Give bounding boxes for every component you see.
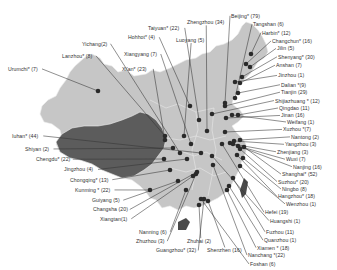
taiwan-island bbox=[240, 178, 248, 198]
city-label: Jinzhou (1) bbox=[278, 72, 304, 78]
city-marker bbox=[210, 112, 215, 117]
city-marker bbox=[206, 199, 211, 204]
city-label: Zhuzhou (3) bbox=[136, 238, 165, 244]
city-marker bbox=[184, 188, 189, 193]
city-marker bbox=[163, 138, 168, 143]
city-label: Dalian *(9) bbox=[281, 82, 306, 88]
city-marker bbox=[162, 157, 167, 162]
city-label: Lanzhou* (8) bbox=[62, 53, 92, 59]
city-label: Xi'an* (23) bbox=[122, 66, 147, 72]
leader-line bbox=[201, 199, 249, 264]
city-label: Taiyuan* (22) bbox=[148, 25, 179, 31]
city-label: Zhuhai (2) bbox=[187, 238, 211, 244]
city-marker bbox=[233, 96, 238, 101]
city-label: Jilin (5) bbox=[277, 45, 294, 51]
city-marker bbox=[223, 104, 228, 109]
leader-line bbox=[238, 85, 280, 93]
city-label: Xiamen * (18) bbox=[257, 245, 289, 251]
city-label: Shenyang* (30) bbox=[278, 54, 315, 60]
city-marker bbox=[148, 188, 153, 193]
city-marker bbox=[199, 151, 204, 156]
leader-line bbox=[233, 178, 265, 232]
city-marker bbox=[197, 203, 202, 208]
city-marker bbox=[205, 129, 210, 134]
city-marker bbox=[241, 156, 246, 161]
city-label: Jingzhou (4) bbox=[64, 166, 93, 172]
city-marker bbox=[185, 157, 190, 162]
city-label: Qingdao (11) bbox=[279, 105, 310, 111]
city-marker bbox=[233, 80, 238, 85]
city-marker bbox=[230, 113, 235, 118]
city-label: Hefei (19) bbox=[265, 209, 288, 215]
city-marker bbox=[235, 153, 240, 158]
city-marker bbox=[225, 188, 230, 193]
city-label: Changsha (20) bbox=[93, 206, 128, 212]
city-label: Xuzhou *(7) bbox=[283, 126, 311, 132]
city-label: Ningbo (8) bbox=[282, 186, 307, 192]
city-marker bbox=[249, 52, 254, 57]
city-label: Luoyang (5) bbox=[176, 37, 204, 43]
city-label: Hohhot* (4) bbox=[128, 34, 155, 40]
city-label: Xiangtan(1) bbox=[100, 216, 127, 222]
leader-line bbox=[199, 205, 201, 238]
city-marker bbox=[240, 75, 245, 80]
city-label: Hangzhou* (18) bbox=[278, 193, 315, 199]
city-marker bbox=[236, 113, 241, 118]
city-marker bbox=[236, 91, 241, 96]
city-marker bbox=[242, 145, 247, 150]
hainan-island bbox=[178, 218, 190, 230]
city-label: Shanghai* (52) bbox=[282, 171, 317, 177]
city-marker bbox=[238, 147, 243, 152]
city-label: Wenzhou (1) bbox=[286, 201, 316, 207]
china-city-map: Urumchi* (7)Lanzhou* (8)Yichang(2)Xi'an*… bbox=[0, 0, 337, 270]
city-marker bbox=[210, 154, 215, 159]
city-label: Foshan (6) bbox=[250, 261, 276, 267]
city-marker bbox=[248, 65, 253, 70]
city-marker bbox=[171, 146, 176, 151]
city-marker bbox=[231, 176, 236, 181]
city-label: Nanchang *(22) bbox=[248, 252, 285, 258]
city-marker bbox=[188, 104, 193, 109]
city-label: Chongqing* (13) bbox=[70, 177, 109, 183]
city-marker bbox=[176, 179, 181, 184]
city-marker bbox=[227, 184, 232, 189]
city-marker bbox=[191, 174, 196, 179]
leader-line bbox=[240, 137, 290, 140]
city-label: Chengdu* (22) bbox=[36, 156, 70, 162]
city-label: Urumchi* (7) bbox=[8, 66, 38, 72]
city-label: Changchun* (16) bbox=[272, 38, 312, 44]
city-marker bbox=[211, 163, 216, 168]
city-label: Suzhou* (20) bbox=[278, 179, 309, 185]
city-marker bbox=[189, 142, 194, 147]
city-marker bbox=[96, 89, 101, 94]
city-marker bbox=[220, 142, 225, 147]
city-label: Xiangyang (7) bbox=[124, 51, 157, 57]
city-label: Guiyang (5) bbox=[92, 197, 120, 203]
city-label: Yichang(2) bbox=[82, 41, 107, 47]
city-marker bbox=[163, 134, 168, 139]
city-marker bbox=[238, 81, 243, 86]
city-label: Huangshi (1) bbox=[270, 218, 300, 224]
city-label: Nanjing (16) bbox=[293, 164, 322, 170]
city-marker bbox=[238, 138, 243, 143]
city-label: Kunming * (22) bbox=[75, 187, 110, 193]
city-label: Anshan (7) bbox=[276, 62, 302, 68]
leader-line bbox=[227, 190, 256, 248]
city-label: Zhengzhou (34) bbox=[187, 19, 224, 25]
city-label: Fuzhou (11) bbox=[266, 229, 294, 235]
city-marker bbox=[238, 164, 243, 169]
city-marker bbox=[178, 151, 183, 156]
city-marker bbox=[224, 116, 229, 121]
city-label: Zhenjiang (3) bbox=[277, 149, 308, 155]
city-marker bbox=[168, 168, 173, 173]
city-marker bbox=[195, 170, 200, 175]
city-label: Shijiazhuang * (12) bbox=[275, 98, 320, 104]
leader-line bbox=[229, 186, 263, 240]
city-label: Beijing* (79) bbox=[231, 13, 260, 19]
city-label: Harbin* (12) bbox=[262, 30, 291, 36]
leader-line bbox=[238, 108, 278, 115]
city-label: Wuxi (7) bbox=[286, 156, 306, 162]
city-label: Shenzhen (16) bbox=[207, 247, 242, 253]
city-marker bbox=[228, 141, 233, 146]
city-label: Jinan (16) bbox=[281, 112, 305, 118]
